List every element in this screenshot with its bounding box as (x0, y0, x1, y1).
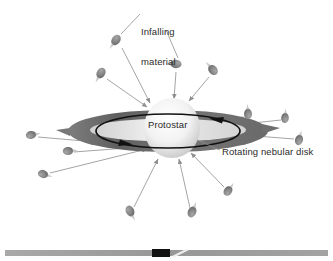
label-infalling-line1: Infalling (141, 27, 176, 37)
footer-marker (152, 249, 170, 257)
label-infalling-material: Infalling material (141, 7, 176, 87)
label-protostar: Protostar (148, 120, 187, 130)
label-rotating-nebular-disk: Rotating nebular disk (222, 147, 313, 157)
protostar-diagram-figure: Infalling material Protostar Rotating ne… (0, 0, 333, 261)
footer-bar-group (5, 249, 328, 257)
label-infalling-line2: material (141, 57, 176, 67)
